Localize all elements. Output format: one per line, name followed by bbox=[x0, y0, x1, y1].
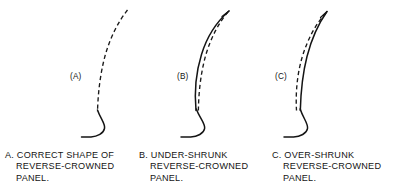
panel-b-top-convergence-tick bbox=[222, 11, 229, 17]
panel-c-group: (C) bbox=[275, 12, 327, 138]
figure-root: (A) (B) (C) A. CORRECT SHAPE OF REVERSE-… bbox=[0, 0, 405, 195]
panel-c-label: (C) bbox=[275, 72, 287, 81]
caption-c-line1: C. OVER-SHRUNK bbox=[272, 150, 381, 161]
panel-a-flange-hook bbox=[82, 110, 105, 137]
panel-b-dashed-correct-profile bbox=[198, 12, 228, 111]
panel-c-solid-actual-profile bbox=[300, 12, 327, 111]
caption-b-line1: B. UNDER-SHRUNK bbox=[139, 150, 248, 161]
panel-b-label: (B) bbox=[177, 72, 188, 81]
caption-b-line2: REVERSE-CROWNED bbox=[139, 161, 248, 172]
panel-b-flange-hook bbox=[181, 109, 205, 137]
panel-b-solid-actual-profile bbox=[195, 11, 229, 111]
caption-c: C. OVER-SHRUNK REVERSE-CROWNED PANEL. bbox=[272, 150, 381, 184]
panel-a-dashed-correct-profile bbox=[98, 10, 128, 112]
caption-a: A. CORRECT SHAPE OF REVERSE-CROWNED PANE… bbox=[5, 150, 114, 184]
panel-a-group: (A) bbox=[70, 10, 128, 137]
caption-a-line2: REVERSE-CROWNED bbox=[5, 161, 114, 172]
caption-c-line2: REVERSE-CROWNED bbox=[272, 161, 381, 172]
caption-b: B. UNDER-SHRUNK REVERSE-CROWNED PANEL. bbox=[139, 150, 248, 184]
caption-b-line3: PANEL. bbox=[139, 173, 248, 184]
caption-c-line3: PANEL. bbox=[272, 173, 381, 184]
panel-c-flange-hook bbox=[284, 109, 308, 137]
panel-a-label: (A) bbox=[70, 72, 81, 81]
panel-b-group: (B) bbox=[177, 11, 229, 137]
caption-a-line3: PANEL. bbox=[5, 173, 114, 184]
caption-a-line1: A. CORRECT SHAPE OF bbox=[5, 150, 114, 161]
